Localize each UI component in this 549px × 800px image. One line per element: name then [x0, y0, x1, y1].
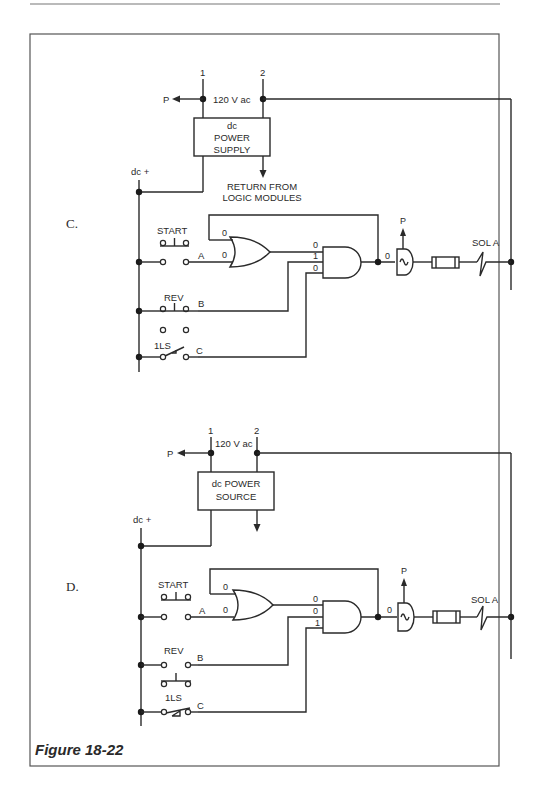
power-box-line-2: SOURCE	[216, 491, 257, 502]
wire-b-route	[198, 262, 323, 311]
terminal-a-label: A	[199, 605, 206, 616]
line-2-label: 2	[254, 425, 259, 436]
amp-input-state: 0	[385, 251, 390, 261]
p-arrow-head	[177, 450, 185, 457]
amp-p-arrow	[400, 228, 406, 236]
dc-plus-label: dc +	[131, 166, 150, 177]
supply-voltage-label: 120 V ac	[213, 94, 251, 105]
rev-label: REV	[164, 645, 184, 656]
and-input-3-state: 0	[313, 263, 318, 273]
sol-a-label: SOL A	[471, 594, 499, 605]
1ls-label: 1LS	[154, 340, 171, 351]
contact	[185, 614, 190, 619]
panel-d: D. 1 2 P 120 V ac dc POWER SOURCE dc + S…	[66, 425, 514, 726]
1ls-label: 1LS	[165, 692, 182, 703]
contact	[183, 259, 188, 264]
amp-p-arrow	[401, 578, 407, 586]
p-label: P	[167, 448, 173, 459]
contact	[185, 662, 190, 667]
ac-amplifier	[398, 603, 414, 631]
wire-b-route	[198, 617, 323, 665]
panel-d-letter: D.	[66, 579, 79, 594]
return-arrow-head	[254, 524, 261, 532]
contact	[161, 662, 166, 667]
junction-dot	[138, 543, 144, 549]
1ls-limit-switch	[161, 708, 190, 716]
p-arrow-head	[172, 96, 180, 103]
or-gate	[230, 237, 270, 267]
or-input-2-state: 0	[222, 250, 227, 260]
return-label-2: LOGIC MODULES	[222, 192, 301, 203]
wire-c-route	[198, 273, 323, 357]
return-label-1: RETURN FROM	[227, 181, 297, 192]
power-box-line-3: SUPPLY	[214, 144, 251, 155]
terminal-c-label: C	[197, 700, 204, 711]
start-pushbutton-no	[161, 592, 191, 600]
figure-caption: Figure 18-22	[35, 741, 124, 758]
contact	[161, 614, 166, 619]
or-gate	[233, 590, 273, 620]
amp-p-label: P	[401, 566, 407, 576]
panel-c: C. 1 2 P 120 V ac dc POWER SUPPLY RETURN…	[66, 67, 514, 372]
junction-dot	[375, 614, 381, 620]
sol-a-label: SOL A	[472, 237, 500, 248]
start-label: START	[158, 579, 188, 590]
amp-input-state: 0	[387, 605, 392, 615]
amp-p-label: P	[400, 216, 406, 226]
or-input-1-state: 0	[222, 228, 227, 238]
power-box-line-2: POWER	[214, 132, 250, 143]
ac-amplifier	[397, 249, 413, 275]
solenoid-coil-icon	[477, 606, 511, 630]
panel-c-letter: C.	[66, 216, 78, 231]
rev-pushbutton-no	[160, 303, 189, 312]
terminal-a-label: A	[198, 250, 205, 261]
and-input-1-state: 0	[313, 240, 318, 250]
wire-c-route	[198, 628, 323, 712]
and-input-3-state: 1	[315, 618, 320, 628]
dc-plus-label: dc +	[133, 514, 152, 525]
junction-dot	[375, 259, 381, 265]
return-arrow-head	[260, 170, 267, 178]
start-pushbutton-no	[160, 238, 189, 246]
supply-voltage-label: 120 V ac	[215, 438, 253, 449]
start-label: START	[157, 225, 187, 236]
contact	[160, 327, 165, 332]
line-1-label: 1	[208, 425, 213, 436]
contact	[183, 327, 188, 332]
junction-dot	[136, 189, 142, 195]
power-box-line-1: dc POWER	[212, 478, 261, 489]
rev-pushbutton-nc	[161, 673, 191, 687]
contact	[160, 259, 165, 264]
figure-canvas: C. 1 2 P 120 V ac dc POWER SUPPLY RETURN…	[0, 0, 549, 800]
rev-label: REV	[164, 292, 184, 303]
and-input-1-state: 0	[313, 594, 318, 604]
power-box-line-1: dc	[227, 120, 237, 131]
terminal-b-label: B	[197, 652, 203, 663]
or-input-1-state: 0	[223, 582, 228, 592]
or-input-2-state: 0	[223, 605, 228, 615]
solenoid-coil-icon	[477, 252, 511, 276]
line-2-label: 2	[260, 67, 265, 78]
terminal-c-label: C	[196, 345, 203, 356]
and-gate	[323, 601, 361, 633]
line-1-label: 1	[200, 67, 205, 78]
and-input-2-state: 0	[313, 606, 318, 616]
p-label: P	[163, 94, 169, 105]
and-input-2-state: 1	[313, 251, 318, 261]
terminal-b-label: B	[198, 298, 204, 309]
and-gate	[323, 247, 361, 278]
